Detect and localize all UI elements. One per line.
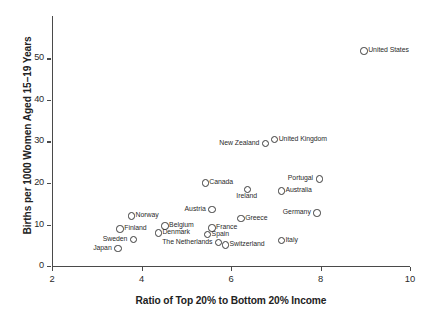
data-point-label: Germany xyxy=(283,208,311,216)
data-point[interactable] xyxy=(278,187,285,194)
y-tick-20 xyxy=(47,183,51,184)
data-point-label: Japan xyxy=(93,244,112,252)
y-tick-label-wrap: 0 xyxy=(16,260,44,272)
data-point-label: Greece xyxy=(245,214,267,222)
data-point[interactable] xyxy=(208,206,215,213)
data-point-label: Finland xyxy=(124,224,146,232)
x-tick-10 xyxy=(410,267,411,271)
y-axis-title: Births per 1000 Women Aged 15–19 Years xyxy=(22,11,33,261)
data-point[interactable] xyxy=(202,179,209,186)
data-point[interactable] xyxy=(278,237,285,244)
x-tick-label-4: 4 xyxy=(127,273,157,284)
data-point-label: Denmark xyxy=(162,228,190,236)
data-point[interactable] xyxy=(222,241,229,248)
chart-page: 01020304050 246810 United StatesUnited K… xyxy=(0,0,434,322)
x-tick-label-10: 10 xyxy=(395,273,425,284)
data-point-label: Switzerland xyxy=(230,240,265,248)
data-point[interactable] xyxy=(271,136,278,143)
x-tick-2 xyxy=(52,267,53,271)
data-point-label: Portugal xyxy=(288,174,313,182)
data-point[interactable] xyxy=(237,215,244,222)
data-point-label: United States xyxy=(368,46,409,54)
data-point[interactable] xyxy=(262,140,269,147)
data-point[interactable] xyxy=(116,225,123,232)
y-tick-30 xyxy=(47,141,51,142)
data-point[interactable] xyxy=(128,212,135,219)
data-point-label: Italy xyxy=(285,236,297,244)
x-tick-4 xyxy=(142,267,143,271)
data-point[interactable] xyxy=(360,47,367,54)
y-tick-50 xyxy=(47,58,51,59)
scatter-plot: 01020304050 246810 United StatesUnited K… xyxy=(0,0,434,322)
x-axis-title: Ratio of Top 20% to Bottom 20% Income xyxy=(52,295,410,306)
data-point[interactable] xyxy=(130,236,137,243)
data-point-label: The Netherlands xyxy=(162,238,212,246)
y-tick-40 xyxy=(47,100,51,101)
y-tick-0 xyxy=(47,266,51,267)
x-tick-6 xyxy=(231,267,232,271)
data-point[interactable] xyxy=(313,209,320,216)
x-tick-label-8: 8 xyxy=(306,273,336,284)
data-point[interactable] xyxy=(316,175,323,182)
data-point[interactable] xyxy=(114,245,121,252)
y-tick-label-0: 0 xyxy=(18,260,44,270)
x-tick-8 xyxy=(321,267,322,271)
data-point-label: Spain xyxy=(212,230,229,238)
data-point[interactable] xyxy=(204,231,211,238)
data-point-label: Sweden xyxy=(103,235,128,243)
y-tick-10 xyxy=(47,225,51,226)
y-axis-line xyxy=(52,16,53,267)
data-point-label: Austria xyxy=(185,205,206,213)
data-point-label: Australia xyxy=(285,186,311,194)
data-point[interactable] xyxy=(155,229,162,236)
x-tick-label-6: 6 xyxy=(216,273,246,284)
data-point-label: Norway xyxy=(136,211,159,219)
data-point-label: New Zealand xyxy=(219,139,259,147)
x-tick-label-2: 2 xyxy=(37,273,67,284)
data-point-label: Canada xyxy=(209,178,233,186)
data-point-label: United Kingdom xyxy=(279,135,327,143)
data-point-label: Ireland xyxy=(236,192,257,200)
